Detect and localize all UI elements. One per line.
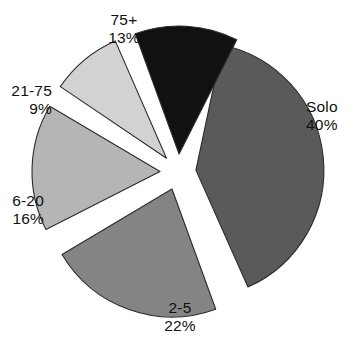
pie-label-category: 75+ bbox=[111, 11, 138, 28]
pie-label-category: 21-75 bbox=[11, 82, 52, 99]
pie-label-category: Solo bbox=[306, 98, 338, 115]
pie-label-percent: 40% bbox=[306, 116, 338, 133]
pie-label-category: 2-5 bbox=[168, 299, 191, 316]
pie-chart-canvas: Solo40%2-522%6-2016%21-759%75+13% bbox=[0, 0, 352, 349]
pie-label-solo: Solo40% bbox=[306, 98, 338, 133]
pie-label-2-5: 2-522% bbox=[164, 299, 196, 334]
pie-chart: Solo40%2-522%6-2016%21-759%75+13% bbox=[0, 0, 352, 349]
pie-label-percent: 22% bbox=[164, 317, 196, 334]
pie-label-percent: 16% bbox=[12, 210, 44, 227]
pie-label-percent: 9% bbox=[29, 100, 52, 117]
pie-label-category: 6-20 bbox=[12, 192, 44, 209]
pie-label-percent: 13% bbox=[108, 29, 140, 46]
pie-label-75: 75+13% bbox=[108, 11, 140, 46]
pie-label-6-20: 6-2016% bbox=[12, 192, 44, 227]
